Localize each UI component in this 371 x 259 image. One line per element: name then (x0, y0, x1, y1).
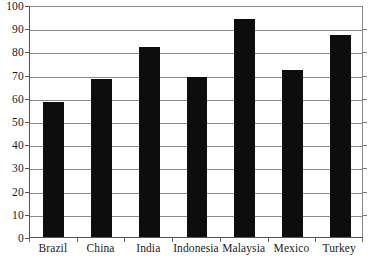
y-axis-tick-label: 0 (18, 232, 24, 244)
x-axis-labels: BrazilChinaIndiaIndonesiaMalaysiaMexicoT… (29, 242, 363, 259)
y-axis-tick-label: 40 (12, 139, 24, 151)
y-axis-tick-right (363, 168, 367, 169)
y-axis-tick-right (363, 215, 367, 216)
x-axis-tick-label: China (87, 242, 115, 254)
y-axis-tick-label: 50 (12, 116, 24, 128)
x-axis-tick-label: Indonesia (173, 242, 219, 254)
x-axis-tick-label: Mexico (274, 242, 310, 254)
y-axis-tick-right (363, 29, 367, 30)
bar[interactable] (91, 79, 112, 237)
y-axis-tick-right (363, 52, 367, 53)
bar[interactable] (330, 35, 351, 237)
bar[interactable] (139, 47, 160, 237)
y-axis-tick-label: 90 (12, 23, 24, 35)
y-axis-tick-right (363, 76, 367, 77)
bars-layer (30, 7, 362, 237)
bar[interactable] (187, 77, 208, 237)
x-axis-tick-label: Malaysia (222, 242, 265, 254)
y-axis-tick-right (363, 99, 367, 100)
y-axis-tick-label: 70 (12, 70, 24, 82)
clipped-chart-title (60, 0, 260, 3)
bar[interactable] (234, 19, 255, 237)
x-axis-tick-label: Brazil (38, 242, 67, 254)
y-axis-right-ticks (363, 6, 369, 238)
y-axis-tick-right (363, 145, 367, 146)
x-axis-tick-label: Turkey (322, 242, 355, 254)
y-axis-tick-label: 80 (12, 46, 24, 58)
y-axis-tick-label: 60 (12, 93, 24, 105)
y-axis-tick-label: 20 (12, 186, 24, 198)
y-axis-tick-label: 10 (12, 209, 24, 221)
y-axis-tick-label: 30 (12, 162, 24, 174)
y-axis-tick-right (363, 122, 367, 123)
y-axis-tick-label: 100 (6, 0, 24, 12)
plot-area (29, 6, 363, 238)
bar[interactable] (43, 102, 64, 237)
x-axis-tick-label: India (136, 242, 160, 254)
y-axis: 0102030405060708090100 (0, 6, 29, 238)
bar-chart: 0102030405060708090100 BrazilChinaIndiaI… (0, 0, 371, 259)
y-axis-tick-right (363, 192, 367, 193)
bar[interactable] (282, 70, 303, 237)
